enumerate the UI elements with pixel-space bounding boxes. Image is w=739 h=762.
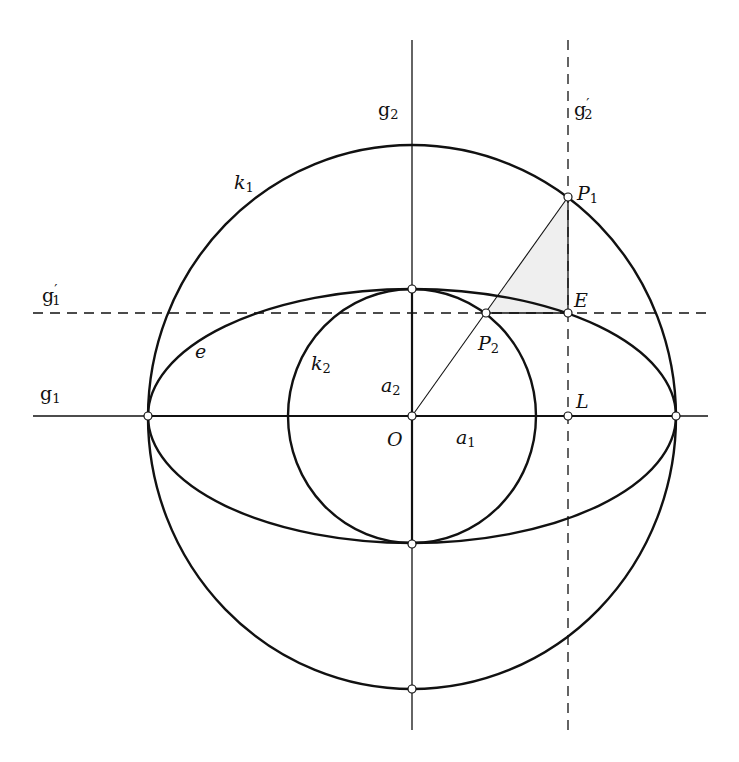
label-k2: k2 xyxy=(311,352,331,376)
label-g1-prime: g′1 xyxy=(42,282,61,308)
label-L: L xyxy=(575,390,589,412)
label-a2: a2 xyxy=(381,374,401,398)
point-E xyxy=(564,309,572,317)
label-O: O xyxy=(387,428,403,450)
label-a1: a1 xyxy=(456,426,476,450)
point-O xyxy=(408,412,416,420)
point-k1-bottom xyxy=(408,685,416,693)
point-P1 xyxy=(564,193,572,201)
point-L xyxy=(564,412,572,420)
point-left-vertex xyxy=(144,412,152,420)
point-P2 xyxy=(482,309,490,317)
point-k2-top xyxy=(408,285,416,293)
point-right-vertex xyxy=(672,412,680,420)
label-g2: g2 xyxy=(378,98,398,122)
label-g2-prime: g′2 xyxy=(574,96,593,122)
label-e: e xyxy=(195,340,206,362)
label-g1: g1 xyxy=(40,382,60,406)
label-P2: P2 xyxy=(477,332,499,356)
label-P1: P1 xyxy=(576,182,598,206)
label-E: E xyxy=(573,289,588,311)
point-k2-bottom xyxy=(408,540,416,548)
label-k1: k1 xyxy=(234,171,254,195)
ellipse-construction-diagram: g2 g′2 g′1 g1 k1 k2 e a2 a1 O L E P1 P2 xyxy=(0,0,739,762)
